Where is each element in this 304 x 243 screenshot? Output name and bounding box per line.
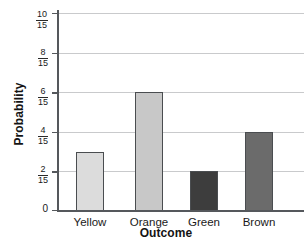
x-axis-title: Outcome — [55, 226, 277, 240]
y-tick-label-8-15: 8 15 — [14, 48, 48, 68]
y-tick-denominator: 15 — [36, 21, 48, 31]
gridline-6-15 — [57, 92, 304, 93]
plot-area: Yellow Orange Green Brown — [57, 13, 304, 211]
y-axis-line — [57, 10, 59, 211]
y-tick-label-6-15: 6 15 — [14, 87, 48, 107]
y-tick-label-4-15: 4 15 — [14, 126, 48, 146]
x-tick-label-yellow: Yellow — [60, 216, 120, 228]
plot-inner: Yellow Orange Green Brown — [57, 13, 304, 211]
chart-title — [55, 0, 275, 3]
x-axis-line — [57, 210, 304, 212]
gridline-8-15 — [57, 53, 304, 54]
bar-brown[interactable] — [245, 132, 273, 211]
x-tick-label-green: Green — [174, 216, 234, 228]
y-tick-denominator: 15 — [38, 176, 48, 186]
bar-chart: Probability Outcome 10 15 8 15 6 15 4 15… — [0, 0, 304, 243]
y-tick-numerator: 10 — [36, 10, 48, 21]
y-tick-denominator: 15 — [38, 98, 48, 108]
gridline-10-15 — [57, 13, 304, 14]
x-tick-label-orange: Orange — [119, 216, 179, 228]
bar-yellow[interactable] — [76, 152, 104, 211]
y-tick-numerator: 4 — [38, 126, 48, 137]
x-tick-label-brown: Brown — [229, 216, 289, 228]
y-tick-label-0: 0 — [14, 203, 48, 214]
y-tick-denominator: 15 — [38, 137, 48, 147]
y-tick-denominator: 15 — [38, 59, 48, 69]
y-tick-numerator: 2 — [38, 165, 48, 176]
y-tick-numerator: 6 — [38, 87, 48, 98]
y-tick-label-10-15: 10 15 — [14, 10, 48, 30]
bar-orange[interactable] — [135, 92, 163, 211]
y-tick-label-2-15: 2 15 — [14, 165, 48, 185]
y-tick-numerator: 8 — [38, 48, 48, 59]
bar-green[interactable] — [190, 171, 218, 211]
